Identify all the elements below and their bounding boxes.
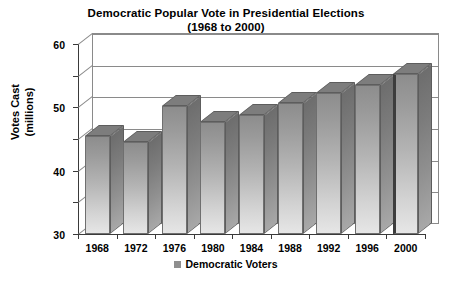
x-axis-tick bbox=[348, 234, 349, 239]
x-axis-line bbox=[78, 234, 425, 235]
bar bbox=[278, 103, 303, 234]
x-axis-tick-label: 1984 bbox=[240, 242, 263, 254]
y-axis-title-line1: Votes Cast bbox=[9, 84, 21, 140]
x-axis-tick-label: 1976 bbox=[163, 242, 186, 254]
x-axis-tick bbox=[194, 234, 195, 239]
x-axis-tick-label: 2000 bbox=[394, 242, 417, 254]
bar bbox=[239, 115, 264, 234]
plot-area: 0102030405060 19681972197619801984198819… bbox=[78, 44, 425, 234]
x-axis-tick bbox=[78, 234, 79, 239]
bar-front-face bbox=[278, 103, 303, 234]
y-axis-tick: 10 bbox=[73, 202, 78, 203]
x-axis-tick bbox=[271, 234, 272, 239]
bar bbox=[200, 122, 225, 234]
chart-title: Democratic Popular Vote in Presidential … bbox=[0, 6, 452, 34]
bar-side-face bbox=[110, 125, 124, 234]
bar-side-face bbox=[303, 92, 317, 234]
bar-side-face bbox=[418, 63, 432, 234]
x-axis-tick-label: 1972 bbox=[124, 242, 147, 254]
y-axis-title-line2: (millions) bbox=[22, 47, 36, 177]
x-axis-tick bbox=[386, 234, 387, 239]
bar bbox=[355, 85, 380, 234]
y-axis-tick-label: 40 bbox=[53, 166, 65, 178]
x-axis-tick-label: 1968 bbox=[86, 242, 109, 254]
x-axis-tick bbox=[232, 234, 233, 239]
y-axis-tick: 50 bbox=[73, 76, 78, 77]
x-axis-tick-label: 1992 bbox=[317, 242, 340, 254]
bar bbox=[123, 142, 148, 234]
bar-front-face bbox=[123, 142, 148, 234]
y-axis-tick: 20 bbox=[73, 171, 78, 172]
y-axis-tick: 60 bbox=[73, 44, 78, 45]
bar-front-face bbox=[239, 115, 264, 234]
legend-label: Democratic Voters bbox=[185, 258, 277, 270]
bar-front-face bbox=[85, 136, 110, 234]
x-axis-tick bbox=[425, 234, 426, 239]
x-axis-tick bbox=[117, 234, 118, 239]
y-axis-tick-label: 50 bbox=[53, 102, 65, 114]
bar-front-face bbox=[393, 74, 418, 234]
x-axis-tick bbox=[155, 234, 156, 239]
gridline-connector bbox=[78, 96, 93, 108]
bar-side-face bbox=[225, 111, 239, 234]
bar-front-face bbox=[200, 122, 225, 234]
x-axis-tick-label: 1996 bbox=[355, 242, 378, 254]
bar-side-face bbox=[187, 95, 201, 234]
y-axis-title: Votes Cast (millions) bbox=[8, 47, 36, 177]
x-axis-tick-label: 1980 bbox=[201, 242, 224, 254]
legend-swatch-icon bbox=[174, 261, 181, 268]
y-axis-tick-label: 30 bbox=[53, 229, 65, 241]
x-axis-tick bbox=[309, 234, 310, 239]
gridline-connector bbox=[78, 33, 93, 45]
y-axis-tick: 40 bbox=[73, 107, 78, 108]
bar-front-face bbox=[162, 106, 187, 234]
chart-container: Democratic Popular Vote in Presidential … bbox=[0, 0, 452, 286]
bar-side-face bbox=[341, 82, 355, 234]
gridline bbox=[93, 34, 438, 35]
bar-side-face bbox=[264, 104, 278, 234]
bar bbox=[393, 74, 418, 234]
chart-subtitle: (1968 to 2000) bbox=[0, 20, 452, 34]
gridline bbox=[93, 66, 438, 67]
x-axis-tick-label: 1988 bbox=[278, 242, 301, 254]
bar-front-face bbox=[316, 93, 341, 234]
bar bbox=[316, 93, 341, 234]
bar-front-face bbox=[355, 85, 380, 234]
y-axis-tick-label: 60 bbox=[53, 39, 65, 51]
bar-side-face bbox=[380, 74, 394, 234]
gridline-connector bbox=[78, 65, 93, 77]
bar bbox=[162, 106, 187, 234]
chart-legend: Democratic Voters bbox=[0, 258, 452, 270]
bar-side-face bbox=[148, 131, 162, 234]
bar bbox=[85, 136, 110, 234]
chart-title-line1: Democratic Popular Vote in Presidential … bbox=[88, 7, 365, 19]
y-axis-tick: 30 bbox=[73, 139, 78, 140]
